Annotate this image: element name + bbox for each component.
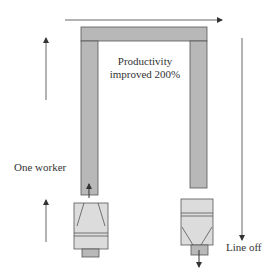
productivity-label: Productivity improved 200% [100, 55, 190, 81]
right-machine [181, 199, 213, 255]
left-machine [74, 203, 108, 257]
title-line-1: Productivity [100, 55, 190, 68]
u-shaped-line-diagram: Productivity improved 200% One worker Li… [0, 0, 272, 278]
title-line-2: improved 200% [100, 68, 190, 81]
diagram-canvas [0, 0, 272, 278]
line-off-label: Line off [226, 241, 262, 253]
u-frame [81, 27, 207, 195]
one-worker-label: One worker [14, 161, 66, 173]
